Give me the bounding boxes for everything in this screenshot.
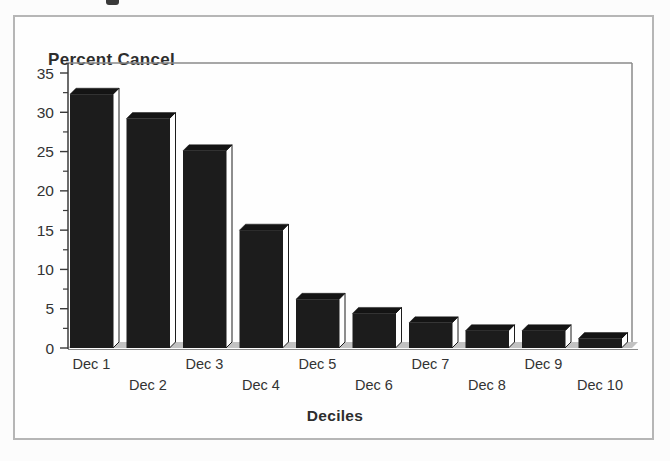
x-category-label: Dec 1 xyxy=(73,356,111,372)
bar-dec-5 xyxy=(296,293,345,348)
x-category-label: Dec 6 xyxy=(355,377,393,393)
bar-top-face xyxy=(296,293,345,299)
bar-front-face xyxy=(296,299,339,348)
bar-dec-9 xyxy=(522,325,571,348)
x-category-label: Dec 10 xyxy=(577,377,623,393)
bar-side-face xyxy=(396,307,402,348)
bar-side-face xyxy=(113,88,119,348)
bar-front-face xyxy=(183,151,226,348)
y-tick-label: 5 xyxy=(45,300,54,317)
bar-top-face xyxy=(522,325,571,331)
x-category-label: Dec 5 xyxy=(299,356,337,372)
x-category-label: Dec 9 xyxy=(525,356,563,372)
x-category-label: Dec 7 xyxy=(412,356,450,372)
bar-front-face xyxy=(409,323,452,348)
bar-top-face xyxy=(466,325,515,331)
bar-dec-10 xyxy=(579,333,628,348)
x-category-label: Dec 4 xyxy=(242,377,280,393)
bar-chart: 05101520253035Dec 1Dec 2Dec 3Dec 4Dec 5D… xyxy=(0,0,670,461)
bar-side-face xyxy=(170,113,176,348)
bar-front-face xyxy=(70,94,113,348)
bar-front-face xyxy=(240,230,283,348)
bar-top-face xyxy=(353,307,402,313)
bar-top-face xyxy=(240,224,289,230)
x-category-label: Dec 3 xyxy=(186,356,224,372)
bar-dec-8 xyxy=(466,325,515,348)
bar-dec-7 xyxy=(409,317,458,348)
y-tick-label: 25 xyxy=(37,143,54,160)
bar-dec-1 xyxy=(70,88,119,348)
bar-front-face xyxy=(127,119,170,348)
bar-dec-6 xyxy=(353,307,402,348)
bar-front-face xyxy=(466,331,509,348)
bar-top-face xyxy=(409,317,458,323)
bar-front-face xyxy=(353,313,396,348)
bar-dec-3 xyxy=(183,145,232,348)
bar-top-face xyxy=(70,88,119,94)
bar-side-face xyxy=(283,224,289,348)
y-tick-label: 20 xyxy=(37,182,55,199)
x-axis-title: Deciles xyxy=(0,407,670,425)
y-tick-label: 30 xyxy=(37,104,55,121)
bar-dec-2 xyxy=(127,113,176,348)
x-category-label: Dec 8 xyxy=(468,377,506,393)
y-tick-label: 15 xyxy=(37,222,54,239)
bar-side-face xyxy=(339,293,345,348)
bar-front-face xyxy=(579,339,622,348)
bar-top-face xyxy=(183,145,232,151)
y-tick-label: 0 xyxy=(45,340,54,357)
y-tick-label: 10 xyxy=(37,261,55,278)
bar-top-face xyxy=(127,113,176,119)
chart-frame: Percent Cancel 05101520253035Dec 1Dec 2D… xyxy=(13,15,654,440)
bar-top-face xyxy=(579,333,628,339)
y-tick-label: 35 xyxy=(37,65,54,82)
x-category-label: Dec 2 xyxy=(129,377,167,393)
bar-front-face xyxy=(522,331,565,348)
bar-side-face xyxy=(226,145,232,348)
bar-dec-4 xyxy=(240,224,289,348)
